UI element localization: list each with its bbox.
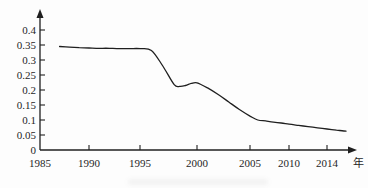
y-tick-label: 0.2 [22, 84, 36, 96]
y-tick-label: 0.25 [17, 69, 37, 81]
y-tick-label: 0.1 [22, 114, 36, 126]
x-tick-label: 2000 [186, 157, 209, 169]
x-tick-label: 1990 [78, 157, 101, 169]
y-tick-label: 0.15 [17, 99, 37, 111]
scan-smudge-artifact [128, 179, 268, 185]
y-axis-arrow-icon [37, 9, 44, 18]
line-chart-figure: 1985199019952000200520102014年00.050.10.1… [0, 0, 368, 188]
x-axis-unit-label: 年 [353, 156, 364, 169]
x-axis-arrow-icon [348, 147, 357, 154]
chart-canvas: 1985199019952000200520102014年00.050.10.1… [0, 0, 368, 188]
trend-line [60, 47, 346, 132]
y-tick-label: 0.05 [17, 129, 37, 141]
y-tick-label: 0.35 [17, 39, 37, 51]
y-tick-label: 0 [31, 144, 37, 156]
y-tick-label: 0.3 [22, 54, 36, 66]
x-tick-label: 1995 [129, 157, 152, 169]
x-tick-label: 2014 [316, 157, 339, 169]
x-tick-label: 2010 [278, 157, 301, 169]
y-tick-label: 0.4 [22, 24, 36, 36]
x-tick-label: 1985 [29, 157, 52, 169]
x-tick-label: 2005 [239, 157, 262, 169]
